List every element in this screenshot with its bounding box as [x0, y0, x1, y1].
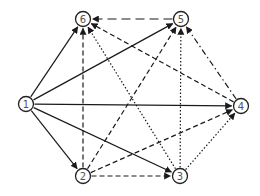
nodes-layer: 123456 [19, 12, 249, 184]
edges-layer [31, 19, 237, 176]
directed-graph: 123456 [0, 0, 260, 196]
node-4: 4 [234, 99, 249, 114]
node-label: 6 [80, 14, 86, 25]
node-1: 1 [19, 97, 34, 112]
edge-4-to-6 [91, 24, 233, 102]
edge-1-to-2 [31, 111, 77, 169]
edge-4-to-5 [186, 27, 236, 99]
node-6: 6 [76, 12, 91, 27]
node-3: 3 [173, 169, 188, 184]
edge-3-to-4 [186, 113, 235, 169]
node-label: 1 [23, 99, 29, 110]
node-label: 4 [238, 101, 244, 112]
node-label: 5 [178, 14, 184, 25]
edge-1-to-4 [35, 104, 232, 106]
edge-3-to-5 [180, 29, 181, 168]
node-label: 3 [177, 171, 183, 182]
edge-2-to-4 [91, 110, 233, 173]
node-5: 5 [174, 12, 189, 27]
node-2: 2 [76, 169, 91, 184]
edge-1-to-6 [31, 27, 78, 97]
node-label: 2 [80, 171, 86, 182]
